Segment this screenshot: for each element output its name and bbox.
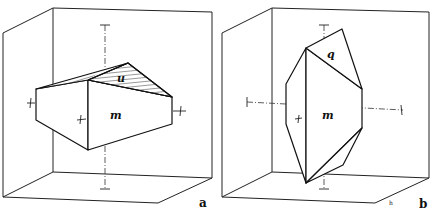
- panel-a: u m a: [3, 8, 212, 210]
- panel-b-crystal: [286, 29, 362, 183]
- face-m-label: m: [110, 109, 122, 122]
- panel-a-label: a: [199, 196, 207, 210]
- face-left: [286, 48, 306, 183]
- crystal-diagram: u m a q m h: [0, 0, 437, 215]
- panel-b: q m h b: [222, 8, 429, 211]
- face-q-label: q: [327, 48, 335, 61]
- corner-mark: h: [389, 199, 393, 206]
- face-u-label: u: [117, 72, 125, 85]
- face-m-label: m: [322, 109, 334, 122]
- panel-b-label: b: [419, 197, 427, 211]
- face-left: [36, 80, 88, 150]
